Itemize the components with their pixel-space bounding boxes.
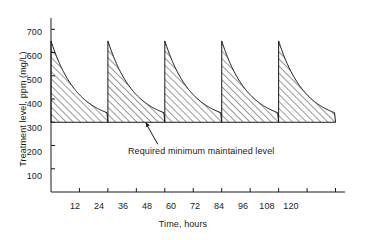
series-area bbox=[51, 41, 336, 122]
annotation-arrow bbox=[146, 122, 158, 144]
chart-figure: Treatment level, ppm (mg/L) Time, hours … bbox=[0, 0, 366, 240]
plot-svg bbox=[0, 0, 366, 240]
